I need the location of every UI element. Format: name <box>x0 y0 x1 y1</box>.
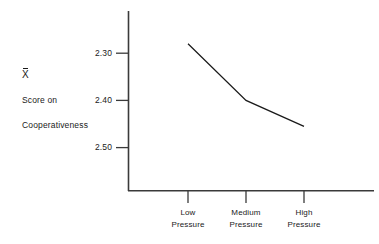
y-tick-label-1: 2.30 <box>78 48 112 58</box>
x-tick-label-high-pressure: High Pressure <box>267 207 341 230</box>
y-axis-caption-mean-symbol: X <box>22 69 29 80</box>
data-series-line <box>188 44 304 127</box>
y-tick-label-2: 2.40 <box>78 95 112 105</box>
x-bar-symbol: X <box>22 70 29 80</box>
x-tick-label-high-pressure-line1: High <box>267 207 341 219</box>
x-tick-label-high-pressure-line2: Pressure <box>267 219 341 231</box>
y-tick-label-3: 2.50 <box>78 142 112 152</box>
line-chart-figure: X Score on Cooperativeness 2.30 2.40 2.5… <box>0 0 379 244</box>
y-axis-caption-line-2: Score on <box>22 95 57 105</box>
y-axis-caption-line-3: Cooperativeness <box>22 120 88 130</box>
